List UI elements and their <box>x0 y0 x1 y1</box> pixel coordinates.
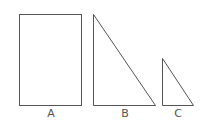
label-c: C <box>174 108 182 120</box>
label-b: B <box>121 108 129 120</box>
shape-c-triangle <box>163 59 194 106</box>
label-a: A <box>47 108 55 120</box>
shape-b-triangle <box>94 15 156 106</box>
shapes-diagram <box>0 0 201 129</box>
shape-a-rectangle <box>20 15 82 106</box>
